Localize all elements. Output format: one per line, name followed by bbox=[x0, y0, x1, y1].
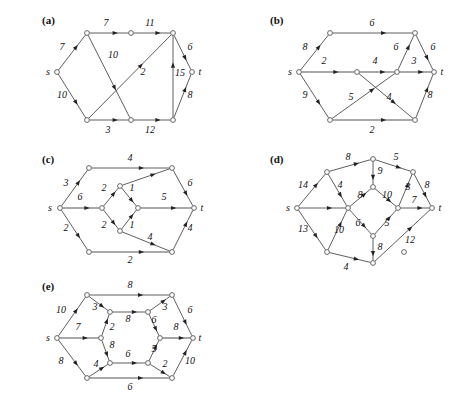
edge-weight-label: 12 bbox=[405, 234, 415, 245]
edge-weight-label: 10 bbox=[185, 355, 195, 366]
edge-weight-label: 6 bbox=[152, 314, 157, 325]
graph-node-e-n2 bbox=[170, 293, 175, 298]
edge-weight-label: 4 bbox=[128, 152, 133, 163]
terminal-label-s: s bbox=[286, 202, 290, 213]
panel-caption-b: (b) bbox=[270, 14, 284, 27]
edge-weight-label: 8 bbox=[188, 89, 193, 100]
edge-weight-label: 10 bbox=[57, 89, 67, 100]
edge-weight-label: 4 bbox=[94, 358, 99, 369]
terminal-label-t: t bbox=[199, 66, 202, 77]
edge-weight-label: 9 bbox=[303, 89, 308, 100]
edge-weight-label: 10 bbox=[334, 224, 344, 235]
edge-weight-label: 8 bbox=[428, 89, 433, 100]
edge-weight-label: 4 bbox=[387, 91, 392, 102]
panel-caption-d: (d) bbox=[270, 153, 284, 166]
graph-node-d-n3 bbox=[411, 170, 416, 175]
terminal-label-t: t bbox=[439, 202, 442, 213]
graph-node-b-n6 bbox=[355, 70, 360, 75]
edge-weight-label: 8 bbox=[346, 151, 351, 162]
graph-node-e-n11 bbox=[108, 361, 113, 366]
edge-weight-label: 12 bbox=[145, 124, 155, 135]
panel-caption-e: (e) bbox=[42, 280, 55, 293]
edge-weight-label: 5 bbox=[385, 217, 390, 228]
edge-weight-label: 8 bbox=[110, 339, 115, 350]
edge-weight-label: 13 bbox=[298, 223, 308, 234]
edge-weight-label: 8 bbox=[59, 355, 64, 366]
graph-node-a-n4 bbox=[190, 70, 195, 75]
graph-node-e-n8 bbox=[146, 310, 151, 315]
graph-node-a-n6 bbox=[129, 118, 134, 123]
edge-weight-label: 6 bbox=[394, 41, 399, 52]
graph-node-d-n9 bbox=[371, 185, 376, 190]
graph-node-e-n1 bbox=[85, 293, 90, 298]
edge-weight-label: 6 bbox=[431, 41, 436, 52]
graph-node-d-n11 bbox=[371, 234, 376, 239]
edge-weight-label: 3 bbox=[162, 301, 168, 312]
graph-node-a-n1 bbox=[85, 31, 90, 36]
graph-node-e-n5 bbox=[85, 376, 90, 381]
edge-weight-label: 14 bbox=[298, 179, 308, 190]
edge-weight-label: 8 bbox=[126, 313, 131, 324]
edge-weight-label: 10 bbox=[382, 189, 392, 200]
terminal-label-t: t bbox=[201, 202, 204, 213]
graph-node-c-n7 bbox=[118, 184, 123, 189]
graph-node-e-n4 bbox=[170, 376, 175, 381]
edge-weight-label: 4 bbox=[373, 55, 378, 66]
graph-node-a-s bbox=[55, 70, 60, 75]
graph-node-a-n7 bbox=[85, 118, 90, 123]
graph-node-b-n2 bbox=[413, 31, 418, 36]
graph-node-a-n5 bbox=[171, 118, 176, 123]
graph-node-c-s bbox=[58, 206, 63, 211]
graph-node-c-n8 bbox=[136, 206, 141, 211]
graph-node-c-n2 bbox=[170, 166, 175, 171]
edge-weight-label: 2 bbox=[64, 222, 69, 233]
terminal-label-s: s bbox=[46, 66, 50, 77]
edge-weight-label: 5 bbox=[152, 343, 157, 354]
graph-node-e-n3 bbox=[191, 336, 196, 341]
edge-weight-label: 8 bbox=[174, 321, 179, 332]
edge-weight-label: 8 bbox=[303, 41, 308, 52]
edge-weight-label: 11 bbox=[145, 17, 154, 28]
edge-weight-label: 2 bbox=[163, 358, 168, 369]
flow-network-figure: (a)7711101023121568st(b)862436695428st(c… bbox=[0, 0, 471, 406]
edge-weight-label: 3 bbox=[92, 301, 98, 312]
terminal-label-s: s bbox=[46, 332, 50, 343]
edge-weight-label: 5 bbox=[349, 91, 354, 102]
graph-node-c-n5 bbox=[87, 250, 92, 255]
edge-weight-label: 4 bbox=[344, 261, 349, 272]
terminal-label-s: s bbox=[288, 66, 292, 77]
edge-weight-label: 6 bbox=[188, 177, 193, 188]
edge-weight-label: 6 bbox=[126, 348, 131, 359]
graph-node-a-n3 bbox=[171, 31, 176, 36]
terminal-label-t: t bbox=[441, 66, 444, 77]
graph-node-d-n8 bbox=[346, 206, 351, 211]
terminal-label-t: t bbox=[199, 332, 202, 343]
edge-weight-label: 2 bbox=[102, 182, 107, 193]
edge-weight-label: 6 bbox=[370, 17, 375, 28]
edge-weight-label: 8 bbox=[358, 189, 363, 200]
edge-weight-label: 2 bbox=[322, 55, 327, 66]
graph-node-c-n4 bbox=[170, 250, 175, 255]
edge-weight-label: 15 bbox=[175, 67, 185, 78]
edge-weight-label: 2 bbox=[110, 321, 115, 332]
edge-weight-label: 6 bbox=[78, 191, 83, 202]
edge-weight-label: 2 bbox=[102, 219, 107, 230]
graph-node-d-n10 bbox=[396, 206, 401, 211]
graph-node-d-s bbox=[295, 206, 300, 211]
graph-node-e-n10 bbox=[146, 361, 151, 366]
edge-weight-label: 2 bbox=[141, 66, 146, 77]
edge-weight-label: 8 bbox=[128, 279, 133, 290]
graph-node-b-s bbox=[297, 70, 302, 75]
graph-node-e-n9 bbox=[158, 336, 163, 341]
edge-weight-label: 6 bbox=[188, 41, 193, 52]
edge-weight-label: 6 bbox=[128, 381, 133, 392]
graph-node-d-n5 bbox=[402, 250, 407, 255]
edge-weight-label: 8 bbox=[378, 241, 383, 252]
edge-weight-label: 6 bbox=[356, 217, 361, 228]
graph-node-c-n9 bbox=[118, 229, 123, 234]
graph-node-a-n2 bbox=[129, 31, 134, 36]
panel-caption-c: (c) bbox=[42, 153, 55, 166]
terminal-label-s: s bbox=[48, 202, 52, 213]
edge-weight-label: 4 bbox=[148, 231, 153, 242]
edge-weight-label: 10 bbox=[108, 49, 118, 60]
